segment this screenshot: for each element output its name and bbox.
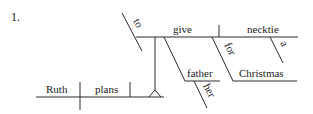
verb-word: plans [95,83,118,95]
object-modifier-slant [270,37,283,63]
pedestal-foot [149,90,161,97]
prepositional-object-word: Christmas [239,67,284,79]
sentence-diagram: 1. Ruth plans give necktie to a father h… [0,0,313,114]
problem-number: 1. [11,10,20,24]
preposition-word: for [222,40,239,57]
infinitive-marker-word: to [131,16,146,30]
object-modifier-word: a [278,38,291,48]
indirect-object-slant [164,37,185,81]
indirect-object-modifier-word: her [201,81,218,99]
direct-object-word: necktie [247,23,279,35]
infinitive-verb-word: give [173,23,192,35]
subject-word: Ruth [46,83,68,95]
indirect-object-word: father [187,67,213,79]
